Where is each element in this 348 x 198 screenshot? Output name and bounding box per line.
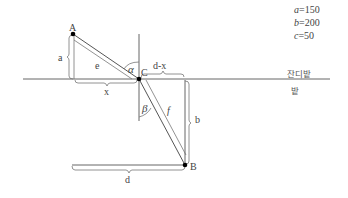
label-x-segment: x [104,86,109,97]
param-c-value: =50 [298,30,314,41]
parameter-list: a=150 b=200 c=50 [294,3,320,42]
segment-e-parallel [74,40,132,79]
point-b [183,163,188,168]
param-b-value: =200 [299,17,320,28]
label-d-segment: d [125,174,130,185]
param-a: a=150 [294,3,320,16]
label-e-segment: e [95,60,100,71]
segment-f-line [139,79,185,165]
label-a-point: A [69,22,77,33]
label-c-point: C [141,67,148,78]
label-a-segment: a [58,52,63,63]
label-b-segment: b [195,114,200,125]
b-brace [185,81,191,164]
a-brace [67,35,73,79]
label-beta: β [141,102,148,114]
segment-f-parallel [146,80,186,155]
label-b-point: B [190,161,197,172]
param-b: b=200 [294,16,320,29]
label-dx-segment: d-x [153,60,166,71]
label-f-segment: f [167,105,171,116]
d-brace [72,166,185,173]
label-alpha: α [128,63,134,75]
param-a-value: =150 [299,4,320,15]
region-label-lower: 밭 [291,84,299,96]
region-label-upper: 잔디밭 [287,67,311,79]
param-c: c=50 [294,29,320,42]
